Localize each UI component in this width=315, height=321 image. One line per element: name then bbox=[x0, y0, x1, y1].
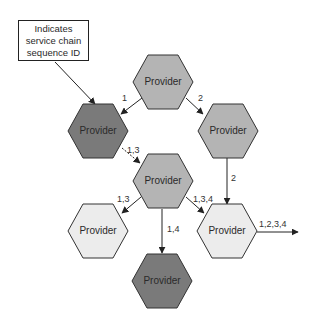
edge-label-top-left: 1 bbox=[122, 93, 127, 103]
provider-node-top: Provider bbox=[133, 55, 193, 109]
provider-node-center: Provider bbox=[133, 154, 193, 208]
svg-text:Provider: Provider bbox=[144, 76, 182, 87]
svg-text:Provider: Provider bbox=[209, 125, 247, 136]
provider-node-bottom: Provider bbox=[132, 254, 192, 308]
svg-text:Provider: Provider bbox=[79, 225, 117, 236]
edge-label-center-bottom-right: 1,3,4 bbox=[193, 194, 213, 204]
svg-text:Provider: Provider bbox=[79, 125, 117, 136]
svg-text:Provider: Provider bbox=[143, 275, 181, 286]
svg-text:Provider: Provider bbox=[208, 225, 246, 236]
edge-label-center-bottom-left: 1,3 bbox=[117, 194, 130, 204]
provider-node-bottom-left: Provider bbox=[68, 204, 128, 258]
edge-label-right-bottom-right: 2 bbox=[231, 173, 236, 183]
callout-line-3: sequence ID bbox=[27, 47, 80, 59]
edge-label-output: 1,2,3,4 bbox=[259, 219, 287, 229]
provider-node-bottom-right: Provider bbox=[197, 204, 257, 258]
callout-pointer-arrow bbox=[55, 62, 95, 104]
callout-line-2: service chain bbox=[26, 35, 81, 47]
callout-box: Indicates service chain sequence ID bbox=[18, 20, 89, 61]
svg-text:Provider: Provider bbox=[144, 175, 182, 186]
provider-node-left: Provider bbox=[68, 104, 128, 158]
edge-label-top-right: 2 bbox=[198, 93, 203, 103]
provider-node-right: Provider bbox=[198, 104, 258, 158]
edge-label-left-center: 1,3 bbox=[127, 145, 140, 155]
edge-label-center-bottom: 1,4 bbox=[167, 224, 180, 234]
callout-line-1: Indicates bbox=[34, 23, 72, 35]
